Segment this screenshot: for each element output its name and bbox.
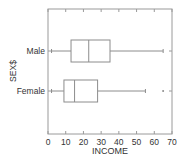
boxplot-chart: 010203040506070 MaleFemale INCOME SEX$ [0,0,184,158]
x-tick-label: 50 [132,137,142,147]
y-axis-label: SEX$ [8,60,18,82]
x-axis: 010203040506070 [46,9,177,147]
y-tick-label: Male [27,46,46,56]
iqr-box [64,80,98,102]
x-axis-label: INCOME [92,146,128,156]
x-tick-label: 70 [167,137,177,147]
x-tick-label: 10 [61,137,71,147]
outlier-point [162,90,164,92]
iqr-box [71,40,110,62]
plot-frame [48,9,172,134]
x-tick-label: 0 [46,137,51,147]
x-tick-label: 20 [79,137,89,147]
box-female [52,80,165,102]
y-tick-label: Female [17,86,46,96]
box-male [52,40,164,62]
plot-border [48,9,172,134]
x-tick-label: 60 [150,137,160,147]
chart-canvas: 010203040506070 MaleFemale INCOME SEX$ [0,0,184,158]
box-series [52,40,165,102]
